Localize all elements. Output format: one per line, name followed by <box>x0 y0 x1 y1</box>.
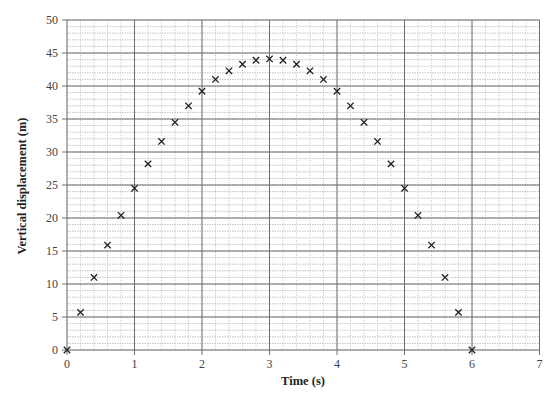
x-tick-label: 1 <box>132 357 138 371</box>
y-axis-ticks: 05101520253035404550 <box>46 13 58 357</box>
y-tick-label: 30 <box>46 145 58 159</box>
x-tick-label: 0 <box>64 357 70 371</box>
data-point-x-marker <box>145 161 151 167</box>
data-point-x-marker <box>388 161 394 167</box>
data-point-x-marker <box>374 138 380 144</box>
x-tick-label: 5 <box>402 357 408 371</box>
y-axis-title: Vertical displacement (m) <box>15 117 29 254</box>
x-tick-label: 2 <box>199 357 205 371</box>
y-tick-label: 5 <box>52 310 58 324</box>
y-tick-label: 15 <box>46 244 58 258</box>
y-tick-label: 35 <box>46 112 58 126</box>
x-tick-label: 3 <box>267 357 273 371</box>
x-tick-label: 4 <box>334 357 340 371</box>
y-tick-label: 25 <box>46 178 58 192</box>
data-point-x-marker <box>158 138 164 144</box>
x-tick-label: 6 <box>469 357 475 371</box>
x-axis-ticks: 01234567 <box>64 357 543 371</box>
y-tick-label: 40 <box>46 79 58 93</box>
x-axis-title: Time (s) <box>281 374 325 388</box>
y-tick-label: 45 <box>46 46 58 60</box>
y-tick-label: 10 <box>46 277 58 291</box>
y-tick-label: 50 <box>46 13 58 27</box>
data-point-x-marker <box>293 61 299 67</box>
y-tick-label: 20 <box>46 211 58 225</box>
displacement-time-chart: 05101520253035404550 01234567 Time (s) V… <box>0 0 554 402</box>
y-tick-label: 0 <box>52 343 58 357</box>
x-tick-label: 7 <box>537 357 543 371</box>
